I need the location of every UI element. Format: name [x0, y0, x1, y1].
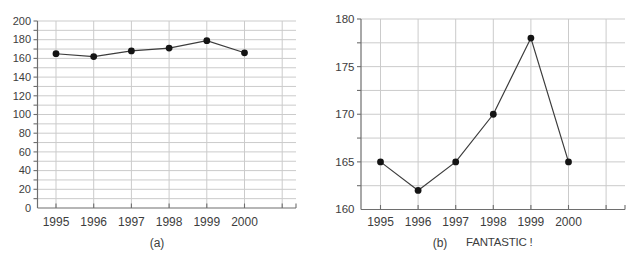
data-point	[203, 37, 210, 44]
data-point	[415, 187, 422, 194]
y-axis-tick-label: 160	[335, 203, 354, 215]
y-axis-tick-label: 20	[19, 183, 31, 195]
chart-a-caption: (a)	[137, 236, 177, 250]
x-axis-year-label: 1995	[367, 215, 394, 229]
data-point	[53, 50, 60, 57]
y-axis-tick-label: 180	[335, 13, 354, 25]
x-axis-year-label: 1999	[193, 215, 220, 229]
chart-b-caption: (b)	[421, 236, 459, 250]
x-axis-year-label: 1998	[480, 215, 507, 229]
figure: 0204060801001201401601802001995199619971…	[0, 0, 632, 262]
x-axis-year-label: 1998	[156, 215, 183, 229]
x-axis-year-label: 1997	[442, 215, 469, 229]
y-axis-tick-label: 40	[19, 164, 31, 176]
y-axis-tick-label: 165	[335, 156, 354, 168]
y-axis-tick-label: 140	[13, 71, 31, 83]
x-axis-year-label: 1997	[118, 215, 145, 229]
x-axis-year-label: 2000	[231, 215, 258, 229]
data-point	[128, 48, 135, 55]
data-point	[452, 158, 459, 165]
x-axis-year-label: 2000	[555, 215, 582, 229]
data-point	[490, 111, 497, 118]
data-point	[241, 49, 248, 56]
y-axis-tick-label: 180	[13, 33, 31, 45]
y-axis-tick-label: 100	[13, 108, 31, 120]
y-axis-tick-label: 175	[335, 61, 354, 73]
data-point	[377, 158, 384, 165]
y-axis-tick-label: 200	[13, 15, 31, 27]
y-axis-tick-label: 0	[25, 202, 31, 214]
charts-svg: 0204060801001201401601802001995199619971…	[0, 0, 632, 262]
data-point	[90, 53, 97, 60]
x-axis-year-label: 1996	[80, 215, 107, 229]
chart-b-annotation: FANTASTIC !	[466, 236, 533, 248]
y-axis-tick-label: 120	[13, 90, 31, 102]
y-axis-tick-label: 60	[19, 146, 31, 158]
y-axis-tick-label: 80	[19, 127, 31, 139]
y-axis-tick-label: 160	[13, 52, 31, 64]
x-axis-year-label: 1995	[43, 215, 70, 229]
x-axis-year-label: 1996	[405, 215, 432, 229]
data-point	[528, 35, 535, 42]
y-axis-tick-label: 170	[335, 108, 354, 120]
data-point	[166, 45, 173, 52]
x-axis-year-label: 1999	[518, 215, 545, 229]
data-point	[565, 158, 572, 165]
